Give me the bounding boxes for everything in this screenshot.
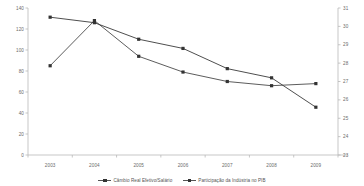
x-axis-tick-label: 2005 bbox=[124, 163, 154, 168]
y-axis-left-tick-label: 20 bbox=[2, 132, 24, 137]
chart-legend: Câmbio Real Efetivo/Salário Participação… bbox=[0, 178, 364, 183]
y-axis-left-tick-label: 40 bbox=[2, 111, 24, 116]
y-axis-right-tick-label: 30 bbox=[343, 24, 348, 29]
legend-marker-icon bbox=[98, 180, 111, 181]
y-axis-right-tick-label: 25 bbox=[343, 116, 348, 121]
y-axis-left-tick-label: 140 bbox=[2, 6, 24, 11]
legend-marker-icon bbox=[183, 180, 196, 181]
chart-container: 140120100806040200 313029282726252423 20… bbox=[0, 0, 364, 186]
chart-plot-area bbox=[0, 0, 364, 186]
legend-item-participacao[interactable]: Participação da Indústria no PIB bbox=[183, 178, 265, 183]
y-axis-right-tick-label: 23 bbox=[343, 153, 348, 158]
y-axis-right-tick-label: 24 bbox=[343, 134, 348, 139]
y-axis-left-tick-label: 0 bbox=[2, 153, 24, 158]
y-axis-left-tick-label: 100 bbox=[2, 48, 24, 53]
series-cambio bbox=[49, 19, 318, 87]
y-axis-left-tick-label: 60 bbox=[2, 90, 24, 95]
x-axis-tick-label: 2009 bbox=[301, 163, 331, 168]
y-axis-left-tick-label: 120 bbox=[2, 27, 24, 32]
legend-label: Participação da Indústria no PIB bbox=[198, 178, 265, 183]
x-axis-tick-label: 2008 bbox=[257, 163, 287, 168]
x-axis-tick-label: 2004 bbox=[79, 163, 109, 168]
x-axis-tick-label: 2007 bbox=[212, 163, 242, 168]
legend-label: Câmbio Real Efetivo/Salário bbox=[113, 178, 172, 183]
y-axis-right-tick-label: 28 bbox=[343, 61, 348, 66]
legend-item-cambio[interactable]: Câmbio Real Efetivo/Salário bbox=[98, 178, 172, 183]
y-axis-right-tick-label: 29 bbox=[343, 42, 348, 47]
y-axis-right-tick-label: 31 bbox=[343, 6, 348, 11]
y-axis-right-tick-label: 27 bbox=[343, 79, 348, 84]
x-axis-tick-label: 2003 bbox=[35, 163, 65, 168]
y-axis-left-tick-label: 80 bbox=[2, 69, 24, 74]
series-participacao bbox=[49, 16, 318, 109]
x-axis-tick-label: 2006 bbox=[168, 163, 198, 168]
y-axis-right-tick-label: 26 bbox=[343, 97, 348, 102]
